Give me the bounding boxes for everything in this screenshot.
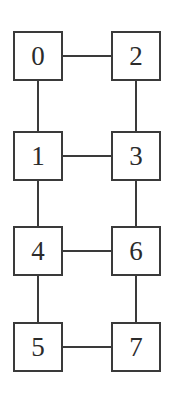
graph-node-7[interactable]: 7 [111, 322, 161, 372]
graph-node-2[interactable]: 2 [111, 31, 161, 81]
node-label-2: 2 [129, 43, 143, 70]
graph-node-3[interactable]: 3 [111, 131, 161, 181]
edge-0-1 [37, 81, 39, 131]
graph-node-1[interactable]: 1 [13, 131, 63, 181]
graph-node-5[interactable]: 5 [13, 322, 63, 372]
graph-node-6[interactable]: 6 [111, 226, 161, 276]
node-label-5: 5 [31, 334, 45, 361]
edge-2-3 [135, 81, 137, 131]
edge-4-6 [63, 250, 111, 252]
edge-1-4 [37, 181, 39, 226]
graph-node-0[interactable]: 0 [13, 31, 63, 81]
node-label-3: 3 [129, 143, 143, 170]
edge-6-7 [135, 276, 137, 322]
edge-3-6 [135, 181, 137, 226]
node-label-7: 7 [129, 334, 143, 361]
edge-4-5 [37, 276, 39, 322]
edge-5-7 [63, 346, 111, 348]
graph-diagram: 0 2 1 3 4 6 5 7 [0, 0, 176, 395]
graph-node-4[interactable]: 4 [13, 226, 63, 276]
edge-1-3 [63, 155, 111, 157]
node-label-4: 4 [31, 238, 45, 265]
edge-0-2 [63, 55, 111, 57]
node-label-0: 0 [31, 43, 45, 70]
node-label-1: 1 [31, 143, 45, 170]
node-label-6: 6 [129, 238, 143, 265]
